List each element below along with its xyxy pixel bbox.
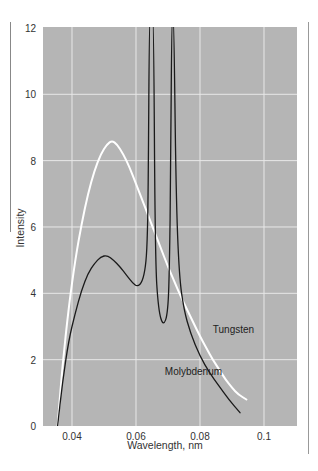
- y-tick-label: 12: [25, 23, 37, 34]
- x-tick-label: 0.04: [62, 431, 82, 442]
- y-tick-label: 8: [30, 156, 36, 167]
- y-tick-label: 10: [25, 89, 37, 100]
- y-tick-label: 0: [30, 421, 36, 432]
- label-molybdenum: Molybdenum: [165, 366, 222, 377]
- y-axis-label: Intensity: [14, 208, 26, 248]
- y-axis-ticks: 024681012: [25, 23, 37, 432]
- y-tick-label: 6: [30, 222, 36, 233]
- y-tick-label: 2: [30, 355, 36, 366]
- x-tick-label: 0.1: [257, 431, 271, 442]
- chart: 024681012 0.040.060.080.1 TungstenMolybd…: [0, 0, 318, 471]
- label-tungsten: Tungsten: [213, 324, 254, 335]
- y-tick-label: 4: [30, 288, 36, 299]
- x-axis-label: Wavelength, nm: [127, 439, 203, 451]
